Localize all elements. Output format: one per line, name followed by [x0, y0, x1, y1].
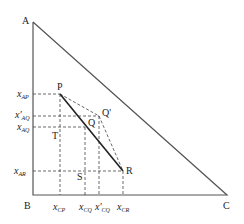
point-T: T: [52, 130, 58, 141]
point-P: P: [57, 81, 63, 92]
point-Q-prime: Q': [102, 107, 111, 118]
label-x-CP: xCP: [52, 201, 65, 213]
vertex-A: A: [22, 15, 30, 26]
ternary-diagram: A B C P Q' Q R S T xAP x'AQ xAQ xAR xCP …: [0, 0, 244, 224]
tie-line-PR: [60, 94, 123, 171]
label-x-prime-CQ: x'CQ: [94, 201, 111, 213]
point-Q: Q: [88, 117, 96, 128]
label-x-CR: xCR: [116, 201, 129, 213]
label-x-AP: xAP: [16, 88, 29, 100]
vertex-B: B: [24, 200, 31, 211]
label-x-AQ: xAQ: [16, 121, 30, 133]
label-x-AR: xAR: [13, 165, 26, 177]
point-R: R: [126, 165, 133, 176]
vertex-C: C: [223, 200, 230, 211]
label-x-CQ: xCQ: [78, 201, 92, 213]
label-x-prime-AQ: x'AQ: [14, 109, 30, 121]
point-S: S: [77, 171, 83, 182]
